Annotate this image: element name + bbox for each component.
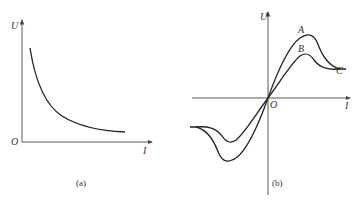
panel-a-curve — [30, 48, 125, 132]
panel-a: U O I (a) — [11, 20, 152, 188]
panel-b-point-a: A — [297, 24, 305, 35]
panel-b-origin-label: O — [270, 99, 277, 110]
panel-b-i-label: I — [344, 100, 349, 111]
panel-a-origin-label: O — [11, 136, 18, 147]
panel-a-u-label: U — [11, 20, 19, 31]
panel-b-caption: (b) — [272, 178, 283, 188]
panel-b-u-label: U — [260, 11, 268, 22]
panel-b: U O I A B C (b) — [190, 11, 350, 195]
panel-a-caption: (a) — [76, 178, 86, 188]
panel-b-point-c: C — [336, 65, 343, 76]
panel-a-i-label: I — [142, 145, 147, 156]
figure: U O I (a) U O I A B C (b) — [0, 0, 362, 205]
panel-b-point-b: B — [298, 43, 304, 54]
